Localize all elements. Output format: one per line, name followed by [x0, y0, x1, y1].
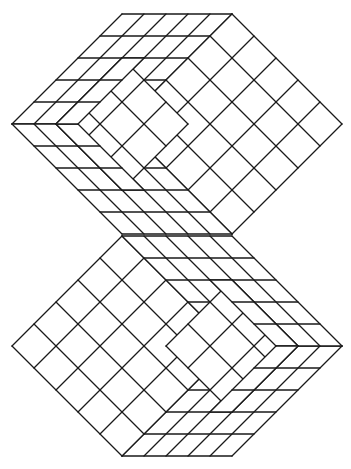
cube-grid-drawing [0, 0, 351, 469]
illusion-figure [0, 0, 351, 469]
bottom-block [12, 236, 342, 456]
top-block [12, 14, 342, 234]
